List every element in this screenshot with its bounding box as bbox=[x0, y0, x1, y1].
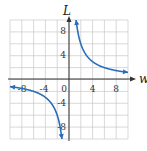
y-tick-label: 4 bbox=[60, 50, 66, 60]
x-axis-arrow-icon bbox=[130, 77, 136, 82]
y-axis-label: L bbox=[62, 4, 71, 18]
x-axis-label: w bbox=[139, 72, 147, 86]
hyperbola-graph: w L -8 -4 0 4 8 8 4 -4 -8 bbox=[0, 0, 147, 151]
x-tick-label: 0 bbox=[61, 84, 67, 94]
x-tick-label: 4 bbox=[90, 84, 96, 94]
x-tick-label: 8 bbox=[113, 84, 119, 94]
x-axis bbox=[8, 77, 136, 82]
y-tick-label: -4 bbox=[57, 98, 66, 108]
y-tick-label: -8 bbox=[57, 122, 66, 132]
hyperbola-branch bbox=[10, 87, 62, 139]
x-tick-label: -4 bbox=[40, 84, 49, 94]
hyperbola-branch bbox=[76, 20, 128, 72]
y-tick-label: 8 bbox=[60, 26, 66, 36]
